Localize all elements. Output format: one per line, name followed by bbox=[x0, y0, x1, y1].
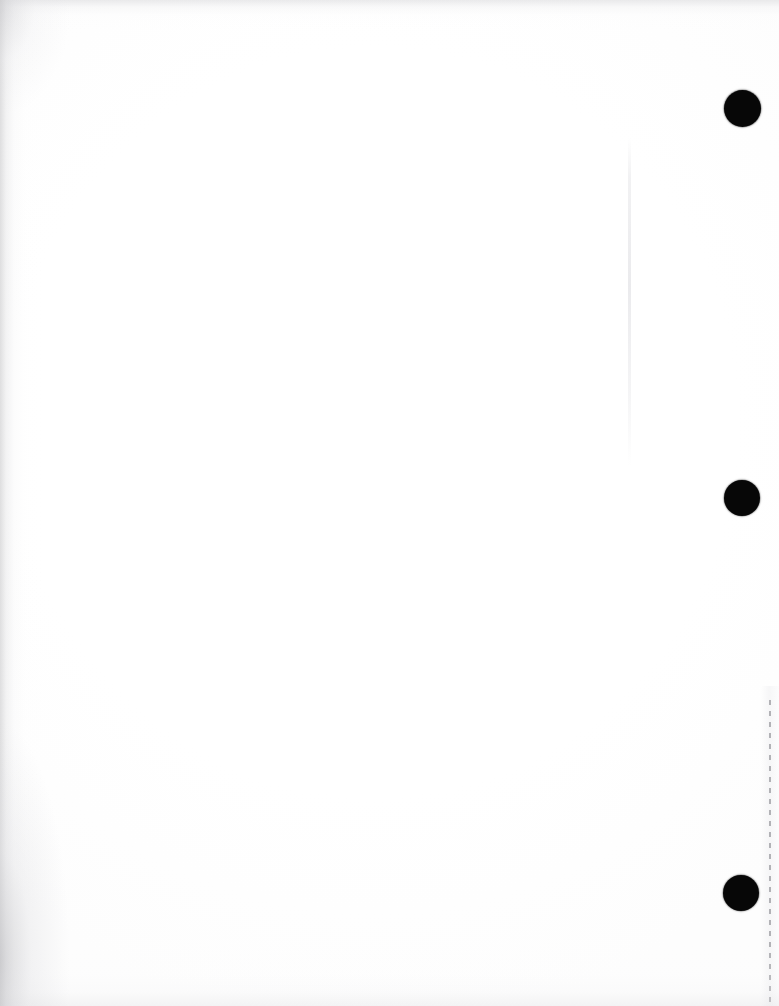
scanned-page bbox=[0, 0, 779, 1006]
punch-hole-middle bbox=[724, 480, 760, 516]
page-body-blank-area bbox=[46, 34, 686, 964]
punch-hole-top bbox=[724, 90, 761, 127]
punch-hole-bottom bbox=[723, 875, 759, 911]
